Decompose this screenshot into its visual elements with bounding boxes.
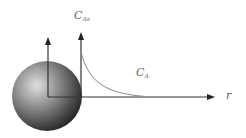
label-surface-concentration: CAs xyxy=(74,10,90,22)
label-radial-axis: r xyxy=(226,90,231,101)
arrow-right-icon xyxy=(207,94,215,100)
diagram-canvas xyxy=(0,0,246,138)
arrow-up-icon xyxy=(78,32,84,40)
sphere-particle xyxy=(12,61,82,131)
arrow-up-icon xyxy=(45,37,51,45)
label-bulk-concentration: CA xyxy=(136,67,149,79)
